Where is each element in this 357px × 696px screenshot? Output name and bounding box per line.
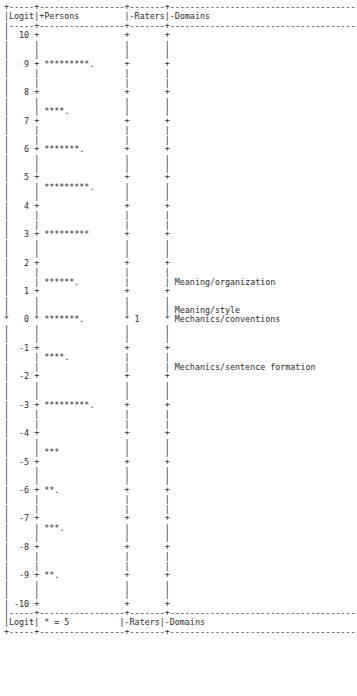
map-rule-line: +-----+-----------------+-------+-------…	[4, 628, 357, 637]
wright-map-ruler: +-----+-----------------+-------+-------…	[4, 3, 357, 637]
